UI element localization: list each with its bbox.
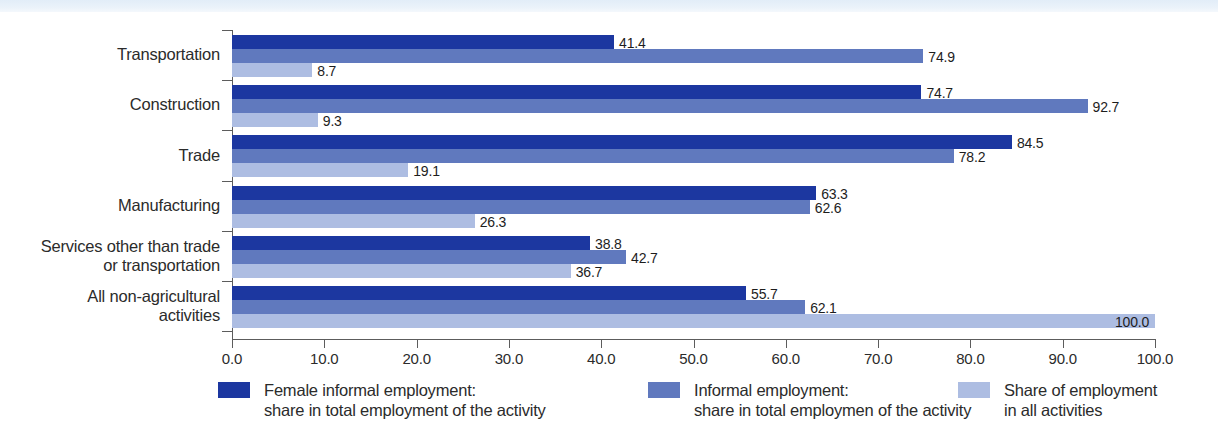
y-axis-tick — [222, 331, 232, 332]
bar-value-label: 62.6 — [810, 201, 841, 215]
x-axis-tick — [878, 340, 879, 348]
bar-value-label: 78.2 — [954, 150, 985, 164]
x-axis-tick — [1155, 340, 1156, 348]
x-axis-tick-label: 10.0 — [310, 350, 338, 367]
x-axis-tick-label: 20.0 — [402, 350, 430, 367]
bar-value-label: 100.0 — [1115, 315, 1155, 329]
bar — [232, 186, 816, 200]
bar — [232, 286, 746, 300]
chart-legend: Female informal employment: share in tot… — [0, 372, 1218, 434]
bar — [232, 113, 318, 127]
bar-value-label: 26.3 — [475, 215, 506, 229]
legend-swatch-icon — [648, 382, 680, 398]
bar — [232, 85, 921, 99]
category-label: Services other than trade or transportat… — [0, 237, 220, 275]
bar — [232, 200, 810, 214]
category-label: Transportation — [0, 45, 220, 64]
x-axis-tick-label: 0.0 — [222, 350, 242, 367]
bar-value-label: 41.4 — [614, 36, 645, 50]
bar — [232, 35, 614, 49]
y-axis-tick — [222, 30, 232, 31]
x-axis-tick — [970, 340, 971, 348]
legend-item[interactable]: Informal employment: share in total empl… — [648, 380, 971, 420]
bar-value-label: 19.1 — [408, 164, 439, 178]
legend-swatch-icon — [218, 382, 250, 398]
bar-value-label: 92.7 — [1088, 100, 1119, 114]
x-axis-tick — [232, 340, 233, 348]
y-axis-tick — [222, 130, 232, 131]
bar — [232, 149, 954, 163]
x-axis-tick-label: 40.0 — [587, 350, 615, 367]
category-label: Trade — [0, 146, 220, 165]
category-label: Manufacturing — [0, 196, 220, 215]
plot-area: 41.474.98.774.792.79.384.578.219.163.362… — [232, 30, 1155, 338]
x-axis-tick — [1063, 340, 1064, 348]
top-decorative-band — [0, 0, 1218, 12]
x-axis-tick-label: 60.0 — [772, 350, 800, 367]
category-label: Construction — [0, 95, 220, 114]
bar-value-label: 55.7 — [746, 287, 777, 301]
x-axis-tick — [601, 340, 602, 348]
x-axis-tick — [694, 340, 695, 348]
category-label: All non-agricultural activities — [0, 287, 220, 325]
x-axis-tick-label: 90.0 — [1048, 350, 1076, 367]
bar — [232, 135, 1012, 149]
horizontal-bar-chart: TransportationConstructionTradeManufactu… — [0, 12, 1218, 362]
bar-value-label: 9.3 — [318, 114, 342, 128]
bar-value-label: 63.3 — [816, 187, 847, 201]
bar — [232, 163, 408, 177]
x-axis-tick — [324, 340, 325, 348]
bar-value-label: 74.9 — [923, 50, 954, 64]
bar-value-label: 84.5 — [1012, 136, 1043, 150]
legend-item[interactable]: Female informal employment: share in tot… — [218, 380, 546, 420]
y-axis-tick — [222, 281, 232, 282]
bar-value-label: 62.1 — [805, 301, 836, 315]
bar-value-label: 42.7 — [626, 251, 657, 265]
bar — [232, 99, 1088, 113]
x-axis-tick-label: 100.0 — [1137, 350, 1174, 367]
x-axis-tick — [417, 340, 418, 348]
bar — [232, 314, 1155, 328]
x-axis-tick-label: 50.0 — [679, 350, 707, 367]
bar — [232, 264, 571, 278]
bar — [232, 214, 475, 228]
bar — [232, 236, 590, 250]
y-axis-tick — [222, 231, 232, 232]
y-axis-tick — [222, 80, 232, 81]
bar — [232, 300, 805, 314]
legend-item[interactable]: Share of employment in all activities — [958, 380, 1157, 420]
y-axis-tick — [222, 181, 232, 182]
x-axis-tick — [786, 340, 787, 348]
legend-label: Share of employment in all activities — [1004, 380, 1157, 420]
legend-swatch-icon — [958, 382, 990, 398]
legend-label: Informal employment: share in total empl… — [694, 380, 971, 420]
legend-label: Female informal employment: share in tot… — [264, 380, 546, 420]
bar — [232, 49, 923, 63]
x-axis-tick — [509, 340, 510, 348]
bar-value-label: 8.7 — [312, 64, 336, 78]
bar — [232, 250, 626, 264]
x-axis-tick-label: 30.0 — [495, 350, 523, 367]
bar-value-label: 74.7 — [921, 86, 952, 100]
bar-value-label: 36.7 — [571, 265, 602, 279]
bar — [232, 63, 312, 77]
x-axis-tick-label: 70.0 — [864, 350, 892, 367]
x-axis-tick-label: 80.0 — [956, 350, 984, 367]
bar-value-label: 38.8 — [590, 237, 621, 251]
